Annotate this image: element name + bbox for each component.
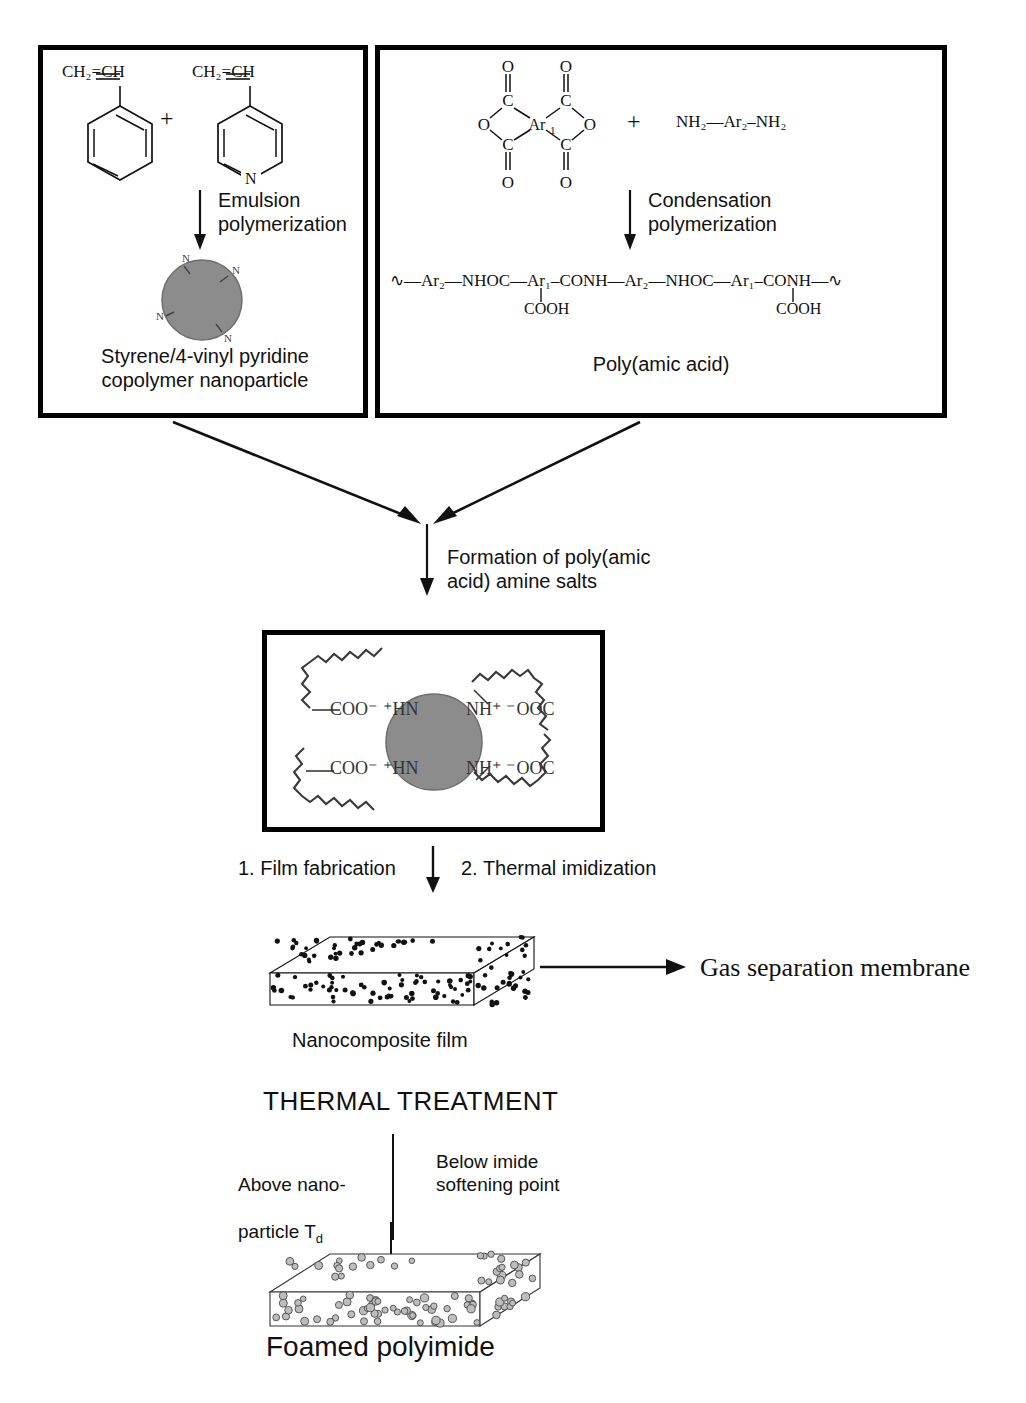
- above-nanoparticle-line1: Above nano-: [238, 1174, 346, 1195]
- thermal-treatment-heading: THERMAL TREATMENT: [263, 1086, 558, 1118]
- diamine-label: NH₂—Ar₂–NH₂: [676, 112, 786, 132]
- svg-text:C: C: [502, 135, 513, 154]
- nanocomposite-film-graphic: [262, 925, 542, 1020]
- salt-formation-label: Formation of poly(amic acid) amine salts: [447, 545, 650, 594]
- salt-row2-right-label: NH⁺ ⁻OOC: [466, 757, 555, 779]
- chain-pendant-cooh-1: COOH: [524, 300, 569, 318]
- above-nanoparticle-td-label: Above nano- particle Td: [238, 1150, 346, 1246]
- svg-text:N: N: [182, 252, 190, 264]
- svg-text:O: O: [502, 173, 514, 192]
- svg-text:C: C: [502, 91, 513, 110]
- nanoparticle-graphic: N N N N: [140, 248, 270, 353]
- gas-separation-arrow: [540, 955, 690, 979]
- foamed-polyimide-caption: Foamed polyimide: [266, 1330, 495, 1364]
- chain-pendant-cooh-2: COOH: [776, 300, 821, 318]
- svg-text:O: O: [502, 57, 514, 76]
- emulsion-polymerization-arrow: [192, 190, 214, 252]
- svg-text:1: 1: [550, 124, 556, 136]
- polyamic-acid-chain: ∿—Ar₂—NHOC—Ar₁–CONH—Ar₂—NHOC—Ar₁–CONH—∿: [390, 270, 842, 291]
- pyridine-nitrogen-label: N: [245, 170, 257, 188]
- svg-text:N: N: [156, 310, 164, 322]
- svg-text:N: N: [232, 264, 240, 276]
- condensation-polymerization-arrow: [622, 190, 644, 252]
- svg-text:O: O: [560, 57, 572, 76]
- below-imide-softening-label: Below imide softening point: [436, 1150, 560, 1196]
- imidization-arrow: [424, 846, 446, 894]
- nanoparticle-caption: Styrene/4-vinyl pyridine copolymer nanop…: [66, 344, 344, 393]
- foamed-polyimide-graphic: [262, 1240, 552, 1340]
- emulsion-polymerization-label: Emulsion polymerization: [218, 188, 347, 237]
- thermal-imidization-label: 2. Thermal imidization: [461, 856, 656, 880]
- monomer-plus-sign: +: [160, 105, 174, 132]
- dianhydride-structure: O O O O C C C C O O Ar 1: [470, 52, 610, 192]
- salt-row1-left-label: COO⁻ ⁺HN: [330, 698, 419, 720]
- svg-text:N: N: [224, 332, 232, 344]
- salt-row2-left-label: COO⁻ ⁺HN: [330, 757, 419, 779]
- salt-complex-graphic: [262, 630, 605, 832]
- above-nanoparticle-line2: particle T: [238, 1221, 316, 1242]
- nanocomposite-film-caption: Nanocomposite film: [292, 1028, 468, 1052]
- svg-text:O: O: [560, 173, 572, 192]
- svg-text:O: O: [584, 115, 596, 134]
- film-fabrication-label: 1. Film fabrication: [238, 856, 396, 880]
- dianhydride-plus-sign: +: [627, 108, 641, 135]
- condensation-polymerization-label: Condensation polymerization: [648, 188, 777, 237]
- figure-canvas: CH₂=CH + CH₂=CH: [0, 0, 1026, 1403]
- polyamic-acid-caption: Poly(amic acid): [375, 352, 947, 376]
- salt-row1-right-label: NH⁺ ⁻OOC: [466, 698, 555, 720]
- svg-text:O: O: [478, 115, 490, 134]
- svg-text:C: C: [560, 91, 571, 110]
- svg-text:C: C: [560, 135, 571, 154]
- dianhydride-center-label: Ar: [529, 116, 547, 133]
- gas-separation-membrane-label: Gas separation membrane: [700, 952, 970, 984]
